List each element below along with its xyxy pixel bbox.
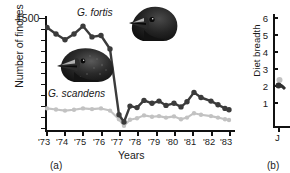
panel-b-point-fortis <box>276 83 282 89</box>
series-label-g-scandens: G. scandens <box>48 88 105 99</box>
finch-head-icon-g-scandens <box>56 44 116 84</box>
panel-b-point-scandens <box>277 77 283 83</box>
finch-head-icon-g-fortis <box>127 2 179 42</box>
figure-root: Number of finches 1500 '73 '74 '75 <box>0 0 290 173</box>
panel-b: Diet breadth 6 5 4 3 2 1 J (b) <box>240 0 290 173</box>
panel-a-plot-svg <box>0 0 240 173</box>
panel-b-plot-svg <box>240 0 290 173</box>
panel-b-caption: (b) <box>267 160 279 171</box>
panel-a: Number of finches 1500 '73 '74 '75 <box>0 0 240 173</box>
series-label-g-fortis: G. fortis <box>77 7 113 18</box>
